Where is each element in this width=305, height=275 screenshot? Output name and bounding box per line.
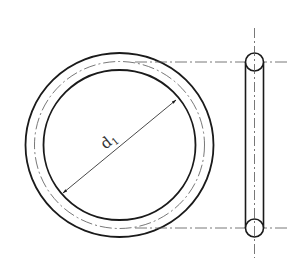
dimension-label: d1 xyxy=(97,129,121,154)
centerline-circle xyxy=(35,62,205,229)
outer-circle xyxy=(26,53,214,237)
diameter-dimension-line xyxy=(63,100,176,193)
front-view: d1 xyxy=(26,53,214,237)
side-view xyxy=(246,28,264,258)
o-ring-diagram: d1 xyxy=(0,0,305,275)
inner-circle xyxy=(44,70,196,220)
